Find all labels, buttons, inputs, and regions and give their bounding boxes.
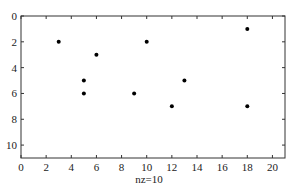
y-tick-label: 10 [6, 139, 18, 151]
x-tick-label: 6 [94, 161, 100, 173]
x-axis-label: nz=10 [135, 173, 163, 185]
y-axis-ticks: 0246810 [6, 10, 285, 151]
data-point [245, 27, 249, 31]
data-point [57, 40, 61, 44]
y-tick-label: 2 [12, 36, 18, 48]
x-tick-label: 14 [192, 161, 204, 173]
x-tick-label: 8 [119, 161, 125, 173]
x-tick-label: 20 [267, 161, 279, 173]
y-tick-label: 4 [12, 62, 18, 74]
x-tick-label: 2 [43, 161, 49, 173]
data-point [82, 79, 86, 83]
data-point [94, 53, 98, 57]
y-tick-label: 6 [12, 87, 18, 99]
x-tick-label: 0 [18, 161, 24, 173]
data-point [82, 91, 86, 95]
x-tick-label: 16 [217, 161, 229, 173]
data-point [145, 40, 149, 44]
data-points [57, 27, 250, 108]
y-tick-label: 0 [12, 10, 18, 22]
data-point [182, 79, 186, 83]
spy-plot: 02468101214161820 0246810 nz=10 [0, 0, 293, 189]
x-tick-label: 18 [242, 161, 254, 173]
x-axis-ticks: 02468101214161820 [18, 16, 278, 173]
data-point [132, 91, 136, 95]
y-tick-label: 8 [12, 113, 18, 125]
x-tick-label: 10 [141, 161, 153, 173]
data-point [245, 104, 249, 108]
plot-frame [21, 16, 285, 158]
axes-box [21, 16, 285, 158]
x-tick-label: 12 [166, 161, 177, 173]
data-point [170, 104, 174, 108]
x-tick-label: 4 [69, 161, 75, 173]
